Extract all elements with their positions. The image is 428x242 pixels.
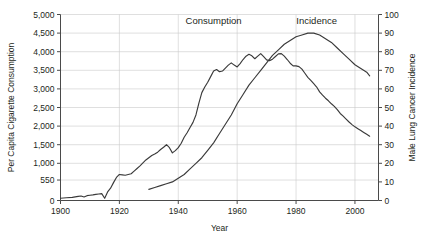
left-tick-label: 3,500 — [33, 65, 55, 75]
left-tick-label: 550 — [40, 175, 54, 185]
bottom-tick-label: 1940 — [169, 206, 188, 216]
bottom-tick-label: 1960 — [228, 206, 247, 216]
bottom-tick-label: 1900 — [51, 206, 70, 216]
right-tick-label: 10 — [385, 177, 395, 187]
x-axis-title: Year — [211, 223, 228, 233]
right-tick-label: 30 — [385, 140, 395, 150]
bottom-tick-label: 1980 — [287, 206, 306, 216]
left-tick-label: 3,000 — [33, 84, 55, 94]
left-tick-label: 4,000 — [33, 47, 55, 57]
bottom-tick-label: 1920 — [110, 206, 129, 216]
right-tick-label: 90 — [385, 28, 395, 38]
left-tick-label: 2,500 — [33, 103, 55, 113]
y-axis-right-title: Male Lung Cancer Incidence — [407, 53, 417, 161]
bottom-tick-label: 2000 — [345, 206, 364, 216]
left-tick-label: 0 — [50, 196, 55, 206]
right-tick-label: 70 — [385, 65, 395, 75]
right-tick-label: 20 — [385, 158, 395, 168]
left-tick-label: 5,000 — [33, 10, 55, 20]
right-tick-label: 80 — [385, 47, 395, 57]
left-tick-label: 4,500 — [33, 28, 55, 38]
left-tick-label: 2,000 — [33, 121, 55, 131]
chart-container: 05501,0001,5002,0002,5003,0003,5004,0004… — [0, 0, 428, 242]
y-axis-left-title: Per Capita Cigarette Consumption — [6, 43, 16, 173]
incidence-label: Incidence — [296, 15, 337, 26]
right-tick-label: 0 — [385, 196, 390, 206]
dual-axis-line-chart: 05501,0001,5002,0002,5003,0003,5004,0004… — [0, 0, 428, 242]
left-tick-label: 1,500 — [33, 140, 55, 150]
left-tick-label: 1,000 — [33, 158, 55, 168]
right-tick-label: 100 — [385, 10, 399, 20]
right-tick-label: 50 — [385, 103, 395, 113]
right-tick-label: 40 — [385, 121, 395, 131]
right-tick-label: 60 — [385, 84, 395, 94]
consumption-label: Consumption — [186, 15, 242, 26]
